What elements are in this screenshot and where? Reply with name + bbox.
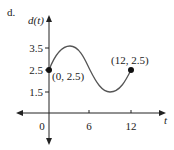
x-tick-label: 12 (126, 120, 137, 132)
x-axis-left-arrow-icon (16, 110, 23, 116)
annotation-start: (0, 2.5) (52, 70, 84, 83)
y-tick-label: 1.5 (29, 86, 43, 98)
y-tick-label: 2.5 (29, 64, 43, 76)
chart: d. 3.5 2.5 1.5 0 6 12 d(t) t (0, 2.5) (1… (0, 0, 174, 150)
y-axis-up-arrow-icon (46, 15, 52, 22)
x-tick-label: 6 (86, 120, 92, 132)
x-tick-label: 0 (39, 120, 45, 132)
point-end (128, 67, 134, 73)
x-axis-label: t (164, 114, 168, 126)
y-axis-down-arrow-icon (46, 138, 52, 145)
y-axis-label: d(t) (28, 14, 44, 27)
annotation-end: (12, 2.5) (111, 54, 149, 67)
problem-label: d. (7, 6, 16, 18)
y-tick-label: 3.5 (29, 42, 43, 54)
curve-d-of-t (49, 46, 131, 92)
